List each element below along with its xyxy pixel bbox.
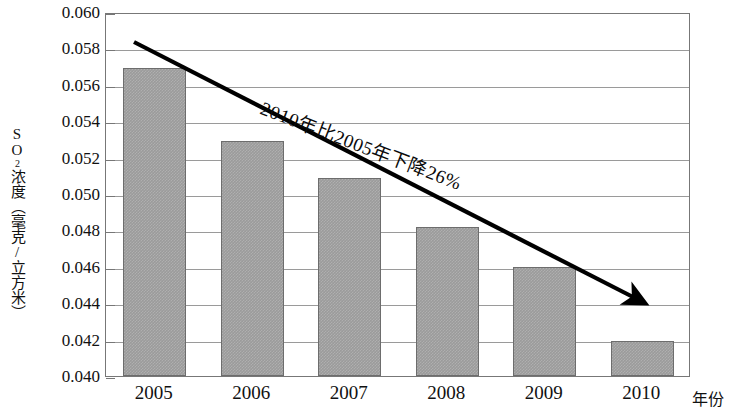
y-axis-title-subscript: 2 — [12, 158, 23, 169]
y-tick-label: 0.048 — [34, 221, 100, 241]
y-tick-label: 0.058 — [34, 39, 100, 59]
y-axis-tick-labels: 0.0600.0580.0560.0540.0520.0500.0480.046… — [30, 0, 100, 420]
y-tick-label: 0.042 — [34, 331, 100, 351]
x-axis-tick-labels: 200520062007200820092010 — [105, 382, 690, 414]
x-tick-label: 2006 — [232, 382, 270, 404]
so2-concentration-bar-chart: SO2浓度（毫克/立方米） 0.0600.0580.0560.0540.0520… — [0, 0, 730, 420]
y-tick-label: 0.040 — [34, 367, 100, 387]
y-tick-label: 0.044 — [34, 294, 100, 314]
y-axis-title: SO2浓度（毫克/立方米） — [2, 108, 26, 338]
x-tick-label: 2009 — [525, 382, 563, 404]
y-tick-label: 0.052 — [34, 149, 100, 169]
x-tick-label: 2007 — [330, 382, 368, 404]
y-tick-mark — [106, 378, 115, 379]
y-tick-label: 0.046 — [34, 258, 100, 278]
x-axis-title: 年份 — [692, 386, 724, 410]
annotation-layer — [106, 14, 689, 376]
x-tick-label: 2005 — [135, 382, 173, 404]
y-tick-label: 0.056 — [34, 76, 100, 96]
plot-area — [105, 13, 690, 377]
y-tick-label: 0.050 — [34, 185, 100, 205]
y-tick-label: 0.060 — [34, 3, 100, 23]
x-tick-label: 2010 — [622, 382, 660, 404]
x-tick-label: 2008 — [427, 382, 465, 404]
y-tick-label: 0.054 — [34, 112, 100, 132]
y-axis-title-so: SO — [9, 126, 25, 158]
y-axis-title-rest: 浓度（毫克/立方米） — [9, 169, 25, 320]
